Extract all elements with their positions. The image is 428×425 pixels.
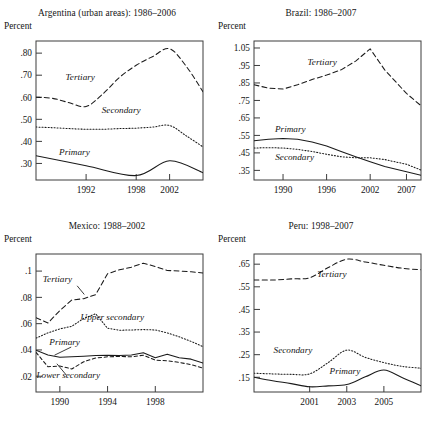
y-axis-tick-label: .85 — [238, 78, 250, 88]
y-axis-tick-label: .25 — [238, 350, 250, 360]
y-axis-tick-label: .55 — [238, 131, 250, 141]
series-annotation-primary: Primary — [329, 366, 362, 376]
plot-brazil: .35.45.55.65.75.85.951.05199019962002200… — [214, 0, 428, 212]
y-axis-tick-label: .15 — [238, 373, 250, 383]
y-axis-tick-label: .30 — [20, 159, 32, 169]
y-axis-tick-label: .70 — [20, 70, 32, 80]
x-axis-tick-label: 1992 — [77, 185, 96, 195]
y-axis-tick-label: .40 — [20, 137, 32, 147]
x-axis-tick-label: 2007 — [397, 185, 416, 195]
y-axis-tick-label: .1 — [25, 266, 32, 276]
series-annotation-secondary: Secondary — [102, 105, 142, 115]
x-axis-tick-label: 1998 — [146, 397, 165, 407]
series-annotation-primary: Primary — [274, 124, 307, 134]
x-axis-tick-label: 2001 — [300, 397, 319, 407]
figure-panel-grid: Argentina (urban areas): 1986–2006 Perce… — [0, 0, 428, 425]
series-annotation-lower-secondary: Lower secondary — [35, 370, 100, 380]
annotation-leader-line — [54, 347, 71, 355]
y-axis-tick-label: 1.05 — [234, 43, 251, 53]
series-line-primary — [36, 156, 203, 176]
y-axis-tick-label: .65 — [238, 259, 250, 269]
x-axis-tick-label: 1994 — [98, 397, 117, 407]
series-annotation-tertiary: Tertiary — [308, 57, 338, 67]
x-axis-tick-label: 1998 — [127, 185, 146, 195]
plot-argentina: .30.40.50.60.70.80199219982002TertiarySe… — [0, 0, 214, 212]
x-axis-tick-label: 2002 — [160, 185, 179, 195]
y-axis-tick-label: .35 — [238, 327, 250, 337]
series-annotation-primary: Primary — [48, 337, 81, 347]
x-axis-tick-label: 1996 — [317, 185, 336, 195]
series-line-tertiary — [254, 49, 421, 106]
y-axis-tick-label: .80 — [20, 48, 32, 58]
series-annotation-tertiary: Tertiary — [43, 274, 73, 284]
x-axis-tick-label: 1990 — [274, 185, 293, 195]
panel-argentina: Argentina (urban areas): 1986–2006 Perce… — [0, 0, 214, 212]
plot-peru: .15.25.35.45.55.65200120032005TertiarySe… — [214, 213, 428, 425]
series-annotation-secondary: Secondary — [275, 152, 315, 162]
y-axis-tick-label: .55 — [238, 282, 250, 292]
x-axis-tick-label: 2003 — [337, 397, 356, 407]
series-annotation-primary: Primary — [58, 147, 91, 157]
series-line-lower-secondary — [36, 352, 203, 369]
y-axis-tick-label: .45 — [238, 305, 250, 315]
series-annotation-secondary: Secondary — [274, 345, 314, 355]
series-annotation-tertiary: Tertiary — [66, 72, 96, 82]
series-annotation-upper-secondary: Upper secondary — [81, 312, 145, 322]
series-line-tertiary — [36, 48, 203, 106]
y-axis-tick-label: .75 — [238, 96, 250, 106]
y-axis-tick-label: .65 — [238, 113, 250, 123]
series-line-secondary — [36, 125, 203, 147]
y-axis-tick-label: .35 — [238, 166, 250, 176]
x-axis-tick-label: 2005 — [375, 397, 394, 407]
annotation-leader-line — [77, 286, 84, 295]
plot-mexico: .02.04.06.08.1199019941998TertiaryUpper … — [0, 213, 214, 425]
panel-mexico: Mexico: 1988–2002 Percent .02.04.06.08.1… — [0, 213, 214, 425]
x-axis-tick-label: 1990 — [51, 397, 70, 407]
y-axis-tick-label: .60 — [20, 93, 32, 103]
series-annotation-tertiary: Tertiary — [317, 269, 347, 279]
y-axis-tick-label: .04 — [20, 345, 32, 355]
y-axis-tick-label: .95 — [238, 61, 250, 71]
y-axis-tick-label: .08 — [20, 293, 32, 303]
panel-brazil: Brazil: 1986–2007 Percent .35.45.55.65.7… — [214, 0, 428, 212]
y-axis-tick-label: .02 — [20, 372, 32, 382]
y-axis-tick-label: .50 — [20, 115, 32, 125]
x-axis-tick-label: 2002 — [361, 185, 380, 195]
panel-peru: Peru: 1998–2007 Percent .15.25.35.45.55.… — [214, 213, 428, 425]
y-axis-tick-label: .45 — [238, 148, 250, 158]
y-axis-tick-label: .06 — [20, 319, 32, 329]
